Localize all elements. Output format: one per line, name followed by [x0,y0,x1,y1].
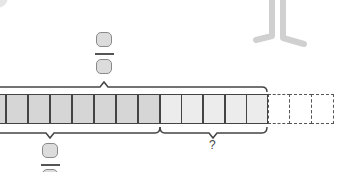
bar-cell-shaded [50,94,72,124]
bar-cell-light [203,94,225,124]
bar-cell-shaded [28,94,50,124]
top-denominator-box[interactable] [96,59,112,74]
corner-decoration [0,0,8,8]
fraction-bar [0,94,340,124]
unknown-question-mark: ? [209,138,216,152]
top-fraction-line [95,53,114,55]
bar-cell-dashed [289,94,312,124]
bar-cell-shaded [138,94,160,124]
bar-cell-dashed [311,94,334,124]
bar-cell-light [225,94,247,124]
bottom-right-brace [160,127,267,138]
bar-cell-light [246,94,268,124]
bar-cell-light [181,94,203,124]
bar-cell-shaded [6,94,28,124]
character-legs-illustration [250,0,310,48]
bar-cell-dashed [268,94,290,124]
bar-cell-shaded [116,94,138,124]
bottom-fraction-line [41,164,60,166]
top-numerator-box[interactable] [96,32,112,47]
bottom-braces [0,124,270,140]
bottom-denominator-box[interactable] [42,169,58,172]
bar-cell-light [160,94,182,124]
bottom-left-brace [0,127,160,138]
bar-cell-shaded [72,94,94,124]
top-brace [0,80,270,94]
bar-cell-shaded [94,94,116,124]
bottom-numerator-box[interactable] [42,143,58,158]
